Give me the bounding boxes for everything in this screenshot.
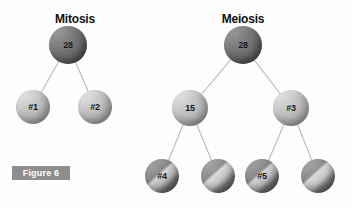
connector-x-m2-to-x-b3 [268, 124, 284, 162]
cell-node-label: 28 [238, 40, 247, 50]
cell-node-meiosis-x-b3: #5 [245, 159, 279, 193]
diagram-title-meiosis: Meiosis [222, 12, 265, 26]
cell-node-meiosis-x-b1: #4 [145, 159, 179, 193]
connector-x-root-to-x-m1 [201, 59, 231, 95]
cell-node-meiosis-x-root: 28 [224, 26, 262, 64]
connector-m-root-to-m-c2 [75, 62, 88, 93]
cell-node-label: 15 [185, 103, 194, 113]
connector-x-root-to-x-m2 [254, 59, 281, 94]
cell-node-meiosis-x-b4 [301, 159, 335, 193]
cell-node-mitosis-m-root: 28 [49, 26, 87, 64]
cell-node-label: #5 [257, 171, 266, 181]
diagram-title-mitosis: Mitosis [55, 12, 95, 26]
figure-label-badge: Figure 6 [12, 166, 70, 180]
cell-node-meiosis-x-b2 [201, 159, 235, 193]
cell-node-mitosis-m-c2: #2 [78, 90, 112, 124]
cell-node-meiosis-x-m2: #3 [273, 90, 309, 126]
connector-m-root-to-m-c1 [41, 61, 59, 93]
cell-node-mitosis-m-c1: #1 [16, 90, 50, 124]
cell-node-label: #1 [28, 102, 37, 112]
cell-node-label: #3 [286, 103, 295, 113]
cell-node-meiosis-x-m1: 15 [172, 90, 208, 126]
cell-node-label: 28 [63, 40, 72, 50]
cell-node-label: #2 [90, 102, 99, 112]
connector-x-m1-to-x-b2 [196, 124, 211, 161]
connector-x-m2-to-x-b4 [297, 124, 312, 161]
connector-x-m1-to-x-b1 [168, 124, 183, 161]
cell-node-label: #4 [157, 171, 166, 181]
figure-canvas: Mitosis28#1#2Meiosis2815#3#4#5Figure 6 [0, 0, 352, 208]
